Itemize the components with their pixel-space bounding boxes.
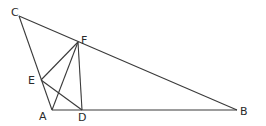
segments-group [19,16,237,110]
label-point-e: E [28,74,35,87]
segment-ca [19,16,52,110]
segment-ef [41,42,78,80]
segment-cb [19,16,237,110]
segment-fd [78,42,82,110]
geometry-diagram: A B C D E F [0,0,266,126]
label-point-c: C [11,6,19,19]
label-point-b: B [240,105,248,118]
label-point-f: F [81,34,87,47]
label-point-d: D [78,111,86,124]
segment-af [52,42,78,110]
label-point-a: A [39,110,47,123]
labels-group: A B C D E F [11,6,248,124]
